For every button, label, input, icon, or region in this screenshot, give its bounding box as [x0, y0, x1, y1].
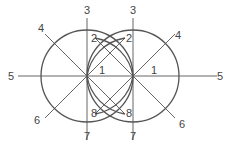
label-2: 2 [126, 32, 132, 44]
two-circle-diagram: 3344225511668877 [0, 0, 230, 149]
label-2: 2 [91, 32, 97, 44]
line-left-diag-6 [45, 76, 87, 118]
line-right-diag-6 [133, 76, 175, 118]
label-8: 8 [91, 107, 97, 119]
label-6: 6 [34, 114, 40, 126]
label-3: 3 [84, 4, 90, 16]
label-4: 4 [175, 29, 181, 41]
diagram-canvas: 3344225511668877 [0, 0, 230, 149]
label-3: 3 [130, 4, 136, 16]
label-5: 5 [217, 70, 223, 82]
label-8: 8 [126, 107, 132, 119]
label-1: 1 [151, 64, 157, 76]
label-7: 7 [84, 130, 90, 142]
label-5: 5 [8, 70, 14, 82]
line-left-diag-4 [45, 34, 87, 76]
label-6: 6 [179, 118, 185, 130]
label-7: 7 [130, 130, 136, 142]
label-4: 4 [38, 22, 44, 34]
label-1: 1 [99, 64, 105, 76]
